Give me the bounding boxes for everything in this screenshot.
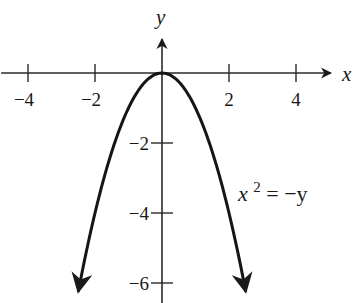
x-tick-label: −4 [14, 89, 35, 110]
y-tick-label: −4 [129, 203, 150, 224]
equation-rest: = −y [266, 181, 307, 206]
equation-superscript: 2 [253, 179, 261, 195]
x-tick-label: 4 [291, 89, 301, 110]
x-axis-label: x [341, 62, 352, 86]
equation-base: x [237, 181, 248, 206]
x-tick-label: 2 [224, 89, 234, 110]
chart: −4−224−2−4−6 x y x 2 = −y [0, 0, 360, 303]
x-tick-label: −2 [81, 89, 101, 110]
y-axis-label: y [154, 5, 166, 29]
equation-annotation: x 2 = −y [237, 172, 308, 206]
y-tick-label: −2 [129, 133, 149, 154]
y-tick-label: −6 [129, 273, 149, 294]
